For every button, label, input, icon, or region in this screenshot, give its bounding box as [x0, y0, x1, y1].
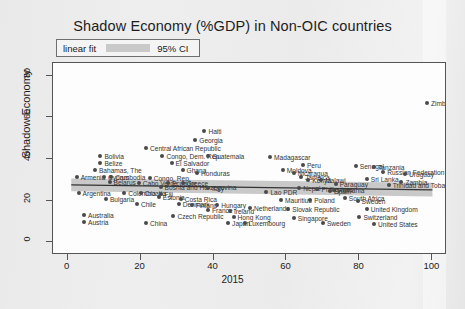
x-tick-label: 20: [120, 260, 160, 271]
x-axis-title: 2015: [0, 274, 465, 285]
point-label: Netherlands: [254, 205, 290, 212]
y-axis-title: Shadow Economy: [20, 54, 32, 174]
chart-figure: Shadow Economy (%GDP) in Non-OIC countri…: [0, 0, 465, 309]
legend-ci-swatch: [106, 44, 150, 52]
scatter-point: [157, 195, 161, 199]
point-label: Italy: [212, 185, 224, 192]
point-label: Sweden: [327, 219, 351, 226]
scatter-point: [82, 213, 86, 217]
scatter-point: [108, 180, 112, 184]
x-tick-label: 0: [47, 260, 87, 271]
y-tick-label: 0: [14, 234, 40, 244]
scatter-point: [243, 221, 247, 225]
scatter-point: [279, 198, 283, 202]
point-label: Georgia: [199, 137, 222, 144]
point-label: Poland: [314, 196, 335, 203]
point-label: Guatemala: [212, 152, 244, 159]
scatter-point: [356, 199, 360, 203]
x-tick-label: 40: [193, 260, 233, 271]
scatter-point: [403, 172, 407, 176]
point-label: Lao PDR: [270, 189, 297, 196]
scatter-point: [425, 101, 429, 105]
scatter-point: [171, 214, 175, 218]
scatter-point: [381, 170, 385, 174]
scatter-point: [286, 207, 290, 211]
scatter-point: [343, 196, 347, 200]
x-tick-mark: [285, 254, 286, 260]
scatter-point: [202, 129, 206, 133]
scatter-point: [98, 161, 102, 165]
scatter-point: [139, 191, 143, 195]
point-label: Japan: [232, 219, 250, 226]
chart-legend: linear fit 95% CI: [56, 39, 200, 57]
scatter-point: [144, 221, 148, 225]
scatter-point: [319, 178, 323, 182]
scatter-point: [195, 171, 199, 175]
scatter-point: [399, 180, 403, 184]
plot-area: ZimbabweHaitiGeorgiaCentral African Repu…: [53, 63, 445, 253]
y-tick-label: 20: [14, 193, 40, 203]
point-label: Haiti: [208, 127, 221, 134]
point-label: Zimbabwe: [431, 99, 445, 106]
scatter-point: [292, 216, 296, 220]
point-label: El Salvador: [176, 160, 210, 167]
scatter-point: [177, 202, 181, 206]
scatter-point: [82, 220, 86, 224]
scatter-point: [102, 175, 106, 179]
scatter-point: [170, 161, 174, 165]
scatter-point: [297, 186, 301, 190]
scatter-point: [306, 178, 310, 182]
scatter-point: [137, 181, 141, 185]
point-label: Bolivia: [104, 152, 123, 159]
scatter-point: [228, 209, 232, 213]
scatter-point: [160, 154, 164, 158]
x-tick-mark: [67, 254, 68, 260]
scatter-point: [206, 208, 210, 212]
scatter-point: [292, 171, 296, 175]
scatter-point: [181, 168, 185, 172]
scatter-point: [354, 164, 358, 168]
legend-linear-fit-label: linear fit: [63, 43, 96, 54]
x-tick-label: 60: [265, 260, 305, 271]
legend-ci-label: 95% CI: [157, 43, 188, 54]
point-label: Austria: [88, 218, 109, 225]
scatter-point: [159, 185, 163, 189]
scatter-point: [308, 198, 312, 202]
scatter-point: [357, 215, 361, 219]
point-label: Luxembourg: [249, 219, 286, 226]
scatter-point: [365, 207, 369, 211]
point-label: United Kingdom: [371, 206, 418, 213]
point-label: China: [150, 219, 167, 226]
x-tick-label: 80: [338, 260, 378, 271]
scatter-point: [372, 165, 376, 169]
scatter-point: [93, 168, 97, 172]
scatter-point: [226, 221, 230, 225]
point-label: Honduras: [201, 169, 230, 176]
point-label: Belize: [104, 160, 122, 167]
point-label: Central African Republic: [150, 144, 221, 151]
point-label: Uruguay: [409, 170, 434, 177]
scatter-point: [75, 175, 79, 179]
point-label: Czech Republic: [177, 213, 223, 220]
point-label: Bulgaria: [110, 195, 134, 202]
scatter-point: [135, 202, 139, 206]
scatter-point: [315, 187, 319, 191]
x-tick-mark: [140, 254, 141, 260]
scatter-point: [321, 221, 325, 225]
scatter-point: [193, 138, 197, 142]
scatter-point: [144, 146, 148, 150]
x-tick-mark: [358, 254, 359, 260]
point-label: Slovak Republic: [292, 206, 339, 213]
plot-frame: ZimbabweHaitiGeorgiaCentral African Repu…: [52, 62, 446, 254]
scatter-point: [206, 154, 210, 158]
point-label: Sweden: [362, 197, 386, 204]
scatter-point: [190, 203, 194, 207]
scatter-point: [372, 222, 376, 226]
point-label: Madagascar: [274, 153, 310, 160]
x-tick-mark: [431, 254, 432, 260]
point-label: United States: [378, 220, 418, 227]
scatter-point: [268, 155, 272, 159]
scatter-point: [281, 168, 285, 172]
x-tick-mark: [213, 254, 214, 260]
scatter-point: [206, 186, 210, 190]
